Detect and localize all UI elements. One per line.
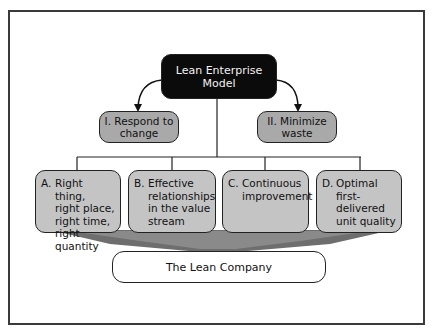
lean-company-node: The Lean Company [112,251,326,283]
root-label-line1: Lean Enterprise [176,64,263,77]
principle-label-line2: change [105,127,174,139]
element-tag: B. [134,177,148,227]
element-text: Effective relationships in the value str… [148,177,215,227]
arrow-left [138,80,162,108]
element-text: Optimal first- delivered unit quality [336,177,397,227]
principle-label-line1: II. Minimize [267,115,327,127]
principle-label-line2: waste [267,127,327,139]
element-text: Right thing, right place, right time, ri… [55,177,116,252]
element-effective-relationships: B. Effective relationships in the value … [128,170,216,233]
element-right-thing: A. Right thing, right place, right time,… [35,170,121,233]
element-text: Continuous improvement [242,177,312,202]
element-tag: D. [322,177,336,227]
arrow-right [276,80,298,108]
element-tag: C. [228,177,242,202]
principle-respond-to-change: I. Respond to change [99,111,179,143]
principle-minimize-waste: II. Minimize waste [257,111,337,143]
connector-lines [0,0,436,335]
element-tag: A. [41,177,55,252]
root-label-line2: Model [176,77,263,90]
element-optimal-quality: D. Optimal first- delivered unit quality [316,170,402,233]
principle-label-line1: I. Respond to [105,115,174,127]
lean-company-label: The Lean Company [166,261,272,274]
lean-enterprise-model-node: Lean Enterprise Model [161,54,277,99]
element-continuous-improvement: C. Continuous improvement [222,170,309,233]
